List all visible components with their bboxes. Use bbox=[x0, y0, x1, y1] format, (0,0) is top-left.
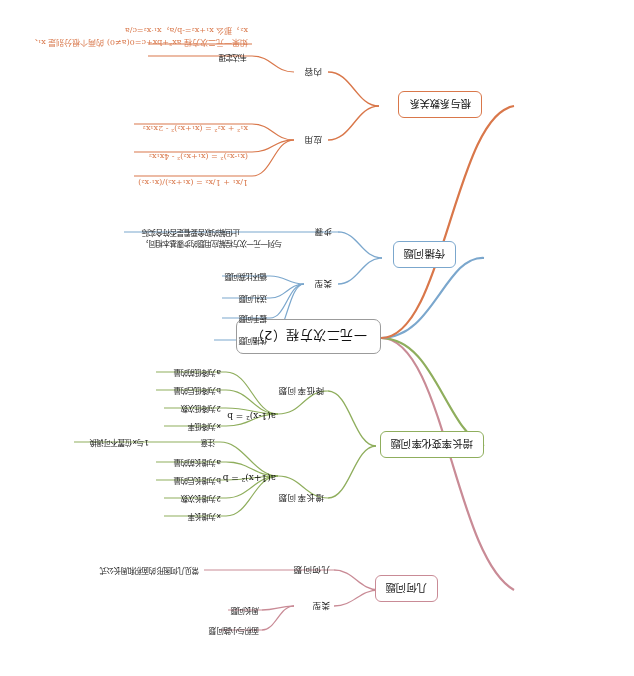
leaf-growth-after[interactable]: b为增长后的量 bbox=[173, 476, 222, 487]
leaf-gift-problem[interactable]: 送礼问题 bbox=[238, 294, 268, 305]
mindmap-canvas: 一元二次方程（2） 几何问题 类型 面积与小路问题 周长问题 几何问题 常见几何… bbox=[0, 0, 634, 676]
label-vieta-theorem[interactable]: 韦达定理 bbox=[218, 53, 248, 64]
branch-geometry[interactable]: 几何问题 bbox=[375, 575, 438, 602]
leaf-spread-problem[interactable]: 传播问题 bbox=[238, 336, 268, 347]
formula-growth-rate: a(1+x)² = b bbox=[223, 473, 276, 483]
note-growth-tip: 1与x位置不可调换 bbox=[89, 438, 150, 449]
leaf-decrease-before[interactable]: a为降低前的量 bbox=[173, 368, 222, 379]
leaf-growth-x[interactable]: x为增长率 bbox=[187, 512, 222, 523]
formula-difference-square: (x₁-x₂)² = (x₁+x₂)² - 4x₁x₂ bbox=[149, 152, 248, 161]
subnode-roots-application[interactable]: 应用 bbox=[302, 134, 324, 148]
subnode-spread-type[interactable]: 类型 bbox=[312, 278, 334, 292]
leaf-growth-times[interactable]: 2为增长次数 bbox=[180, 494, 222, 505]
mindmap-rotated-container: 一元二次方程（2） 几何问题 类型 面积与小路问题 周长问题 几何问题 常见几何… bbox=[0, 0, 634, 676]
subnode-geometry-type[interactable]: 类型 bbox=[310, 600, 332, 614]
leaf-decrease-x[interactable]: x为降低率 bbox=[187, 422, 222, 433]
leaf-handshake-problem[interactable]: 握手问题 bbox=[238, 314, 268, 325]
leaf-decrease-after[interactable]: b为降低后的量 bbox=[173, 386, 222, 397]
label-growth-tip[interactable]: 注意 bbox=[200, 438, 216, 449]
branch-spread[interactable]: 传播问题 bbox=[393, 241, 456, 268]
formula-sum-of-squares: x₁² + x₂² = (x₁+x₂)² - 2x₁x₂ bbox=[143, 124, 248, 133]
leaf-growth-before[interactable]: a为增长前的量 bbox=[173, 458, 222, 469]
leaf-perimeter-problem[interactable]: 周长问题 bbox=[230, 606, 260, 617]
note-geometry-formulas: 常见几何图形的面积和周长公式 bbox=[99, 566, 200, 577]
subnode-decrease-rate-problem[interactable]: 降低率问题 bbox=[276, 385, 326, 399]
subnode-growth-rate-problem[interactable]: 增长率问题 bbox=[276, 492, 326, 506]
branch-growth-rate[interactable]: 增长率变化率问题 bbox=[380, 431, 484, 458]
formula-reciprocal-sum: 1/x₁ + 1/x₂ = (x₁+x₂)/(x₁·x₂) bbox=[138, 178, 248, 187]
leaf-decrease-times[interactable]: 2为降低次数 bbox=[180, 404, 222, 415]
subnode-spread-steps[interactable]: 步骤 bbox=[312, 226, 334, 240]
leaf-round-robin-problem[interactable]: 循环比赛问题 bbox=[223, 272, 268, 283]
subnode-roots-content[interactable]: 内容 bbox=[302, 66, 324, 80]
note-vieta-statement: 如果一元二次方程 ax²+bx+c=0(a≠0) 的两个根分别是 x₁、x₂，那… bbox=[28, 24, 248, 48]
branch-roots-coefficients[interactable]: 根与系数关系 bbox=[398, 91, 482, 118]
formula-decrease-rate: a(1-x)² = b bbox=[227, 411, 276, 421]
subnode-geometry-problem[interactable]: 几何问题 bbox=[291, 564, 332, 578]
note-spread-steps: 与列一元一次方程解应用题的步骤基本相同， 止但解的取舍要看是否符合实际 bbox=[142, 227, 282, 250]
leaf-area-path-problem[interactable]: 面积与小路问题 bbox=[208, 626, 260, 637]
